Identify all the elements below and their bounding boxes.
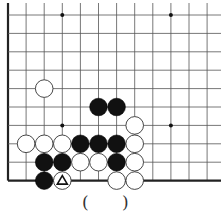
white-stone: [126, 153, 144, 171]
black-stone: [108, 135, 126, 153]
white-stone: [90, 153, 108, 171]
go-board: [0, 0, 221, 190]
white-stone: [35, 80, 53, 98]
white-stone: [126, 172, 144, 190]
answer-close-paren: ): [122, 192, 129, 212]
black-stone: [108, 153, 126, 171]
hoshi-point: [169, 123, 173, 127]
white-stone: [35, 135, 53, 153]
black-stone: [72, 135, 90, 153]
black-stone: [90, 98, 108, 116]
white-stone: [126, 135, 144, 153]
hoshi-point: [60, 13, 64, 17]
white-stone: [17, 135, 35, 153]
answer-open-paren: (: [82, 192, 89, 212]
white-stone: [126, 117, 144, 135]
white-stone: [54, 135, 72, 153]
black-stone: [108, 98, 126, 116]
hoshi-point: [60, 123, 64, 127]
black-stone: [35, 153, 53, 171]
black-stone: [35, 172, 53, 190]
black-stone: [54, 153, 72, 171]
white-stone: [108, 172, 126, 190]
hoshi-point: [169, 13, 173, 17]
black-stone: [90, 135, 108, 153]
white-stone: [72, 153, 90, 171]
